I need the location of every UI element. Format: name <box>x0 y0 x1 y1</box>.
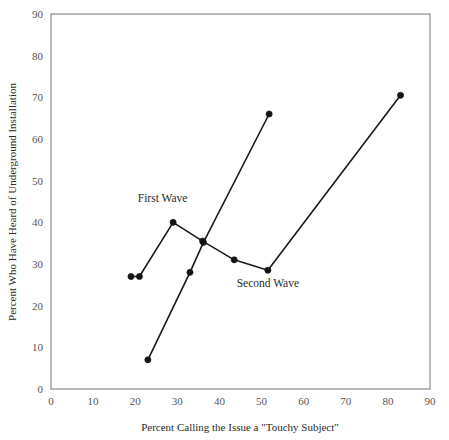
data-point <box>136 273 142 279</box>
y-axis-tick-labels: 0102030405060708090 <box>32 8 44 395</box>
chart-container: 0102030405060708090 0102030405060708090 … <box>0 0 449 440</box>
series-line-first-wave <box>131 95 401 276</box>
data-point <box>397 92 403 98</box>
data-point <box>145 357 151 363</box>
y-tick-label: 50 <box>32 175 44 187</box>
annotation-label: Second Wave <box>237 277 299 289</box>
y-tick-label: 80 <box>32 50 44 62</box>
y-axis-title: Percent Who Have Heard of Underground In… <box>6 83 18 321</box>
x-tick-label: 0 <box>48 395 54 407</box>
y-tick-label: 0 <box>38 383 44 395</box>
y-tick-label: 70 <box>32 91 44 103</box>
x-tick-label: 60 <box>298 395 310 407</box>
plot-frame-rect <box>51 14 430 389</box>
y-tick-label: 30 <box>32 258 44 270</box>
annotation-label: First Wave <box>138 192 188 204</box>
x-tick-label: 80 <box>382 395 394 407</box>
y-tick-label: 60 <box>32 133 44 145</box>
data-series-group <box>128 92 404 363</box>
x-tick-label: 90 <box>425 395 437 407</box>
scatter-line-chart: 0102030405060708090 0102030405060708090 … <box>0 0 449 440</box>
data-point <box>200 239 206 245</box>
x-tick-label: 40 <box>214 395 226 407</box>
data-point <box>187 269 193 275</box>
data-point <box>128 273 134 279</box>
data-point <box>266 111 272 117</box>
y-tick-label: 90 <box>32 8 44 20</box>
x-tick-label: 10 <box>88 395 100 407</box>
x-tick-label: 30 <box>172 395 184 407</box>
x-tick-label: 20 <box>130 395 142 407</box>
data-point <box>170 219 176 225</box>
plot-frame <box>51 14 430 389</box>
x-tick-label: 50 <box>256 395 268 407</box>
y-tick-label: 10 <box>32 341 44 353</box>
y-tick-label: 40 <box>32 216 44 228</box>
data-point <box>265 267 271 273</box>
x-axis-title: Percent Calling the Issue a "Touchy Subj… <box>141 421 339 433</box>
y-tick-label: 20 <box>32 300 44 312</box>
x-axis-tick-labels: 0102030405060708090 <box>48 395 436 407</box>
data-point <box>231 257 237 263</box>
x-tick-label: 70 <box>340 395 352 407</box>
series-line-second-wave <box>148 114 269 360</box>
